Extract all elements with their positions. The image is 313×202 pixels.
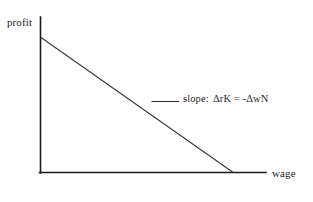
annotation-term-left: rK bbox=[220, 93, 231, 104]
x-axis-label: wage bbox=[272, 168, 296, 179]
delta-symbol-right: Δ bbox=[246, 93, 253, 104]
slope-annotation: slope: ΔrK = -ΔwN bbox=[183, 94, 268, 105]
frontier-line bbox=[41, 38, 233, 173]
delta-symbol-left: Δ bbox=[213, 93, 220, 104]
annotation-term-right: wN bbox=[253, 93, 268, 104]
profit-wage-frontier-figure: profit wage slope: ΔrK = -ΔwN bbox=[0, 0, 313, 202]
y-axis-label: profit bbox=[7, 17, 32, 28]
slope-annotation-prefix: slope: bbox=[183, 93, 209, 104]
annotation-equals: = bbox=[234, 93, 240, 104]
